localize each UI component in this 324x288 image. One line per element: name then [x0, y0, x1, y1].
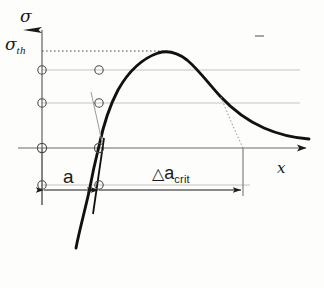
threshold-label: σth [5, 34, 26, 56]
delta-symbol: △ [152, 164, 164, 183]
dimension-label-a: a [63, 166, 74, 188]
diagram-svg [0, 0, 324, 288]
threshold-label-sigma: σ [5, 34, 17, 54]
delta-a-letter: a [164, 163, 174, 183]
x-axis-label: x [277, 159, 285, 177]
dimension-label-delta-a-crit: △acrit [152, 163, 190, 185]
threshold-label-subscript: th [17, 44, 26, 56]
stress-curve [76, 52, 309, 248]
delta-a-subscript: crit [174, 173, 189, 185]
curve-drop-dotted-line [221, 97, 243, 148]
figure-canvas: σ σth x a △acrit [0, 0, 324, 288]
y-axis-label: σ [20, 6, 32, 26]
